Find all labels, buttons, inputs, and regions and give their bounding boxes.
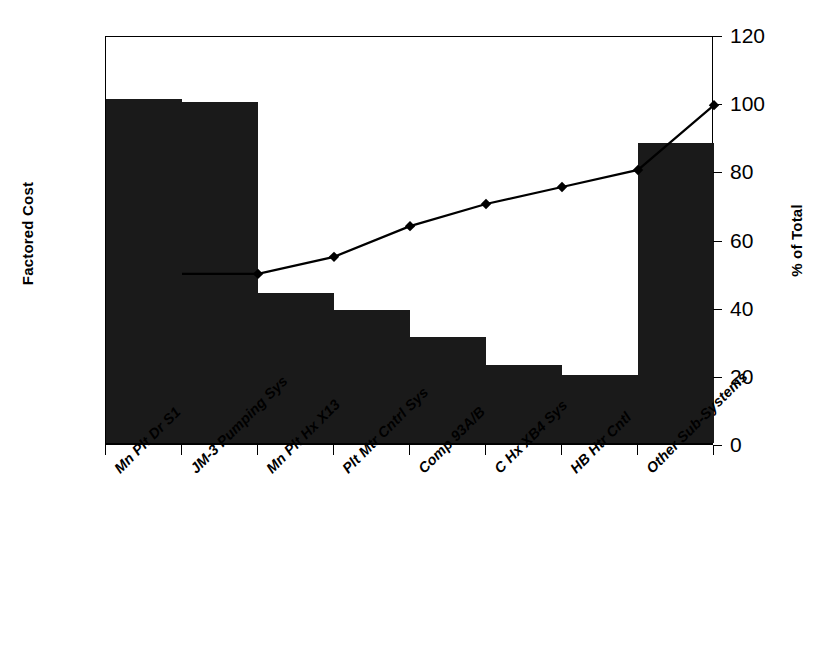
x-axis-tick-3 xyxy=(333,445,334,455)
cumulative-line xyxy=(182,105,714,274)
right-axis-tick-120 xyxy=(713,36,722,37)
x-axis-tick-4 xyxy=(409,445,410,455)
right-axis-tick-60 xyxy=(713,241,722,242)
x-axis-tick-1 xyxy=(181,445,182,455)
right-axis-tick-label-0: 0 xyxy=(730,434,742,455)
left-axis-title: Factored Cost xyxy=(19,144,36,324)
right-axis-tick-label-120: 120 xyxy=(730,25,765,46)
plot-area xyxy=(105,36,713,445)
right-axis-tick-100 xyxy=(713,104,722,105)
x-axis-tick-8 xyxy=(713,445,714,455)
right-axis-tick-80 xyxy=(713,172,722,173)
right-axis-tick-40 xyxy=(713,309,722,310)
x-axis-tick-2 xyxy=(257,445,258,455)
right-axis-tick-label-40: 40 xyxy=(730,298,753,319)
right-axis-tick-0 xyxy=(713,445,722,446)
x-axis-tick-7 xyxy=(637,445,638,455)
line-marker-1 xyxy=(253,269,263,279)
right-axis-tick-20 xyxy=(713,377,722,378)
line-marker-4 xyxy=(481,199,491,209)
line-marker-5 xyxy=(557,182,567,192)
x-axis-tick-0 xyxy=(105,445,106,455)
cumulative-line-series xyxy=(106,37,714,446)
right-axis-tick-label-100: 100 xyxy=(730,93,765,114)
pareto-chart: Factored Cost % of Total 120100806040200… xyxy=(0,0,831,649)
right-axis-title: % of Total xyxy=(788,151,805,331)
right-axis-tick-label-60: 60 xyxy=(730,230,753,251)
line-marker-3 xyxy=(405,221,415,231)
right-axis-tick-label-80: 80 xyxy=(730,161,753,182)
x-axis-tick-6 xyxy=(561,445,562,455)
x-axis-tick-5 xyxy=(485,445,486,455)
line-marker-2 xyxy=(329,252,339,262)
